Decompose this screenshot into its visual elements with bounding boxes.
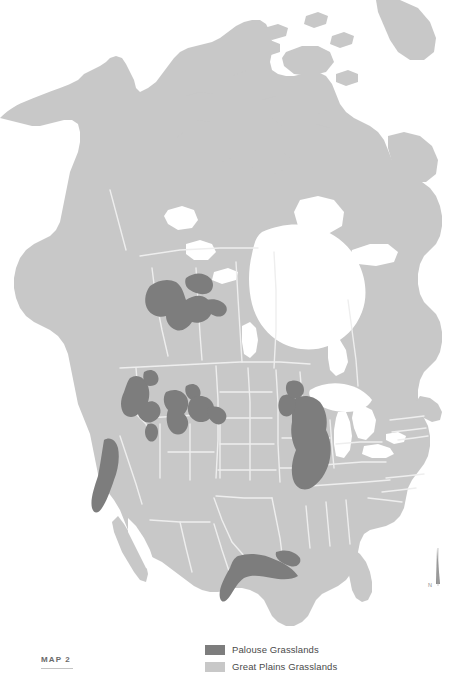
map-figure: N MAP 2 Palouse Grasslands Great Plains … (0, 0, 460, 678)
legend-item-great-plains[interactable]: Great Plains Grasslands (205, 658, 405, 675)
compass-north-label: N (428, 582, 432, 588)
legend-swatch-palouse (205, 645, 225, 655)
compass-rose: N (428, 543, 450, 587)
north-america-map[interactable] (0, 0, 460, 678)
legend-swatch-great-plains (205, 662, 225, 672)
map-caption: MAP 2 (41, 655, 111, 669)
legend-label-great-plains: Great Plains Grasslands (232, 661, 337, 672)
legend-label-palouse: Palouse Grasslands (232, 644, 319, 655)
map-number-label: MAP 2 (41, 655, 111, 664)
map-legend: Palouse Grasslands Great Plains Grasslan… (205, 641, 405, 675)
map-caption-rule (41, 668, 73, 669)
legend-item-palouse[interactable]: Palouse Grasslands (205, 641, 405, 658)
